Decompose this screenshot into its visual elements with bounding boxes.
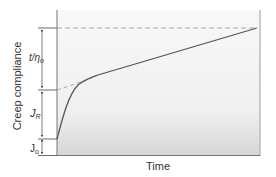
j0-label: Jo bbox=[30, 143, 39, 155]
creep-compliance-chart: t/ηo JR Jo Creep compliance Time bbox=[0, 0, 276, 177]
x-axis-label: Time bbox=[146, 160, 170, 172]
plot-area bbox=[57, 10, 260, 155]
jr-label: JR bbox=[29, 107, 41, 120]
y-axis-label: Creep compliance bbox=[11, 42, 23, 131]
